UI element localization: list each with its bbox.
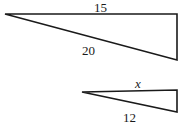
label-large-triangle-top-side: 15 [94, 1, 107, 14]
label-small-triangle-hypotenuse: 12 [123, 111, 136, 124]
small-triangle [82, 90, 177, 112]
label-large-triangle-hypotenuse: 20 [82, 44, 95, 57]
geometry-figure: 15 20 x 12 [0, 0, 185, 129]
triangles-drawing [0, 0, 185, 129]
small-triangle-outline [82, 90, 177, 112]
label-small-triangle-top-side: x [135, 77, 141, 90]
